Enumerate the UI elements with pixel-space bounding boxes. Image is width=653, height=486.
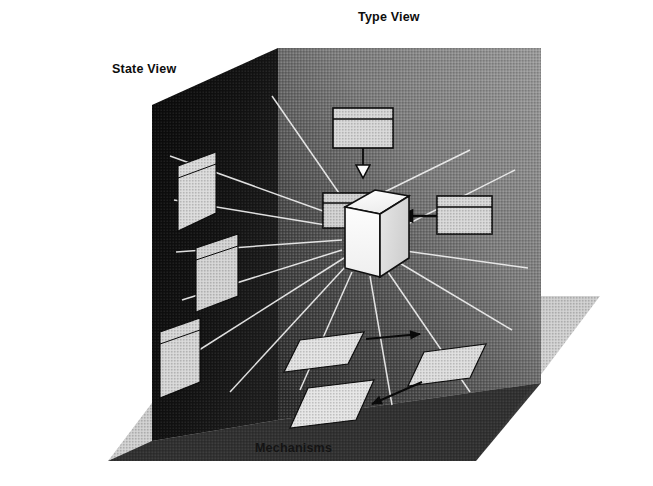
mechanisms-label: Mechanisms — [255, 441, 332, 455]
state-view-label: State View — [112, 62, 176, 76]
figure-canvas: Type View State View Mechanisms — [0, 0, 653, 486]
supertype-box — [333, 108, 393, 148]
object-cube — [345, 190, 409, 277]
type-view-label: Type View — [358, 10, 420, 24]
right-type-box — [437, 196, 492, 234]
three-view-scene — [0, 0, 653, 486]
